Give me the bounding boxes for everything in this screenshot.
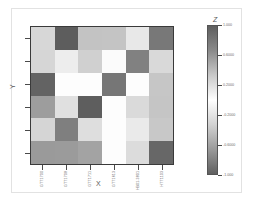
- y-tick: [25, 61, 30, 62]
- colorbar-title: Z: [213, 16, 217, 23]
- heatmap-cell: [31, 73, 55, 96]
- colorbar-tick: [218, 85, 222, 86]
- heatmap-cell: [55, 50, 79, 73]
- heatmap-cell: [31, 118, 55, 141]
- colorbar-ticks: [218, 25, 222, 175]
- heatmap-cell: [126, 96, 150, 119]
- x-tick: [66, 165, 67, 170]
- colorbar-tick-labels: 1.0000.60000.2000-0.2000-0.6000-1.000: [223, 25, 253, 175]
- x-tick: [162, 165, 163, 170]
- colorbar-tick: [218, 55, 222, 56]
- y-tick: [25, 153, 30, 154]
- heatmap-cell: [78, 27, 102, 50]
- heatmap-cell: [55, 118, 79, 141]
- x-tick-label: GTT1700: [40, 171, 44, 187]
- heatmap-cell: [126, 73, 150, 96]
- heatmap-cell: [149, 27, 173, 50]
- heatmap-cell: [78, 73, 102, 96]
- heatmap-cell: [149, 50, 173, 73]
- heatmap-cell: [126, 50, 150, 73]
- x-tick: [138, 165, 139, 170]
- x-tick: [42, 165, 43, 170]
- colorbar-tick: [218, 115, 222, 116]
- colorbar-tick-label: 0.6000: [223, 53, 234, 57]
- heatmap-cell: [102, 50, 126, 73]
- colorbar-gradient[interactable]: [207, 25, 218, 175]
- heatmap-cell: [78, 141, 102, 164]
- heatmap-cell: [31, 96, 55, 119]
- heatmap-cell: [78, 96, 102, 119]
- heatmap-cell: [31, 50, 55, 73]
- colorbar-tick-label: 0.2000: [223, 83, 234, 87]
- heatmap-cell: [55, 27, 79, 50]
- heatmap-cell: [55, 141, 79, 164]
- heatmap-cell: [102, 118, 126, 141]
- x-tick-label: GTT1711: [88, 171, 92, 187]
- x-tick-label: GTT1708: [64, 171, 68, 187]
- colorbar-tick: [218, 145, 222, 146]
- x-tick-label: HB01-3801: [136, 171, 140, 190]
- heatmap-cell: [102, 96, 126, 119]
- y-axis-label: Y: [9, 84, 16, 89]
- heatmap-cell: [78, 118, 102, 141]
- heatmap-cell: [149, 118, 173, 141]
- x-axis-ticks: [30, 165, 174, 170]
- colorbar-tick: [218, 25, 222, 26]
- x-tick: [90, 165, 91, 170]
- heatmap-cell: [126, 141, 150, 164]
- colorbar-tick: [218, 175, 222, 176]
- y-tick: [25, 84, 30, 85]
- colorbar-tick-label: -0.2000: [223, 113, 235, 117]
- heatmap-cell: [31, 141, 55, 164]
- x-tick-label: HTT1103: [160, 171, 164, 186]
- heatmap-cell: [102, 73, 126, 96]
- x-tick: [114, 165, 115, 170]
- y-axis-ticks: [25, 26, 30, 165]
- heatmap-grid: [31, 27, 173, 164]
- matrix-plot-figure: Y GTT1700GTT1708GTT1711GTT1613HB01-3801H…: [0, 0, 253, 206]
- heatmap-cell: [102, 27, 126, 50]
- heatmap-cell: [149, 96, 173, 119]
- colorbar-tick-label: 1.000: [223, 23, 232, 27]
- colorbar-tick-label: -1.000: [223, 173, 233, 177]
- y-tick: [25, 130, 30, 131]
- heatmap-cell: [126, 118, 150, 141]
- x-axis-label: X: [96, 180, 101, 187]
- colorbar-tick-label: -0.6000: [223, 143, 235, 147]
- heatmap-axes[interactable]: [30, 26, 174, 165]
- heatmap-cell: [55, 73, 79, 96]
- x-tick-label: GTT1613: [112, 171, 116, 187]
- heatmap-cell: [55, 96, 79, 119]
- x-axis-tick-labels: GTT1700GTT1708GTT1711GTT1613HB01-3801HTT…: [30, 171, 174, 195]
- heatmap-cell: [78, 50, 102, 73]
- heatmap-cell: [31, 27, 55, 50]
- heatmap-cell: [149, 141, 173, 164]
- heatmap-cell: [149, 73, 173, 96]
- heatmap-cell: [102, 141, 126, 164]
- y-tick: [25, 38, 30, 39]
- y-tick: [25, 107, 30, 108]
- heatmap-cell: [126, 27, 150, 50]
